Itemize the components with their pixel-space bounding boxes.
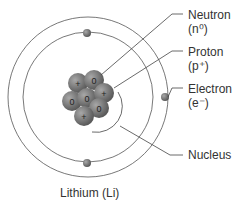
svg-text:0: 0 [69, 97, 74, 107]
svg-text:0: 0 [84, 94, 89, 104]
diagram-caption: Lithium (Li) [60, 186, 119, 200]
svg-text:+: + [81, 112, 86, 122]
neutron-name: Neutron [188, 8, 231, 22]
svg-text:0: 0 [91, 76, 96, 86]
electron-label: Electron (e⁻) [188, 82, 232, 110]
proton-symbol: (p⁺) [188, 59, 223, 73]
proton-label: Proton (p⁺) [188, 45, 223, 73]
neutron-label: Neutron (n⁰) [188, 8, 231, 36]
proton-name: Proton [188, 45, 223, 59]
svg-text:0: 0 [96, 104, 101, 114]
nucleus: + 0 0 0 + 0 + [62, 70, 114, 126]
neutron-symbol: (n⁰) [188, 22, 231, 36]
electron-name: Electron [188, 82, 232, 96]
svg-text:+: + [101, 89, 106, 99]
electron-symbol: (e⁻) [188, 96, 232, 110]
svg-text:+: + [75, 79, 80, 89]
nucleus-label: Nucleus [188, 148, 231, 162]
